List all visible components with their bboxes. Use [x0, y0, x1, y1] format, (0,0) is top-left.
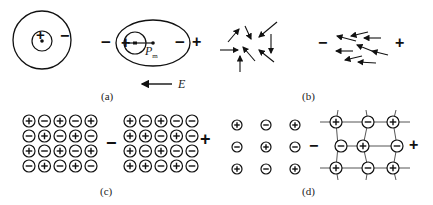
panel-label-b: (b) [302, 90, 315, 102]
anion [39, 145, 51, 157]
cation [124, 160, 136, 172]
anion [23, 160, 35, 172]
cation [85, 115, 97, 127]
d-minus-sign: − [309, 138, 318, 154]
anion [186, 160, 198, 172]
dielectric-polarization-figure: + − − + − + Pm E − + − + − + (a) (b) (c)… [0, 0, 433, 205]
anion [186, 115, 198, 127]
cation [387, 162, 399, 174]
anion [186, 145, 198, 157]
moment-subscript: m [152, 52, 157, 60]
anion [261, 120, 271, 130]
anion [171, 115, 183, 127]
cation [23, 145, 35, 157]
cation [54, 115, 66, 127]
cation [39, 160, 51, 172]
cation [85, 145, 97, 157]
polarized-cloud-minus: − [175, 34, 185, 51]
cation [124, 130, 136, 142]
cation [155, 145, 167, 157]
cation [54, 145, 66, 157]
cation [171, 130, 183, 142]
random-dipoles [220, 22, 277, 72]
anion [362, 116, 374, 128]
cation [261, 142, 271, 152]
d-plus-sign: + [409, 137, 418, 153]
cation [232, 120, 242, 130]
anion [391, 140, 403, 152]
right-plus-sign: + [192, 34, 201, 50]
cation [290, 164, 300, 174]
c-minus-sign: − [106, 134, 117, 152]
anion [232, 142, 242, 152]
anion [362, 162, 374, 174]
cation [140, 160, 152, 172]
cation [124, 145, 136, 157]
cation [290, 120, 300, 130]
cation [70, 160, 82, 172]
anion [85, 130, 97, 142]
left-minus-sign: − [101, 34, 111, 51]
anion [85, 160, 97, 172]
polarized-nucleus-plus: + [121, 35, 130, 51]
cation [330, 162, 342, 174]
dipole-center-mark [133, 42, 137, 45]
cation [124, 115, 136, 127]
panel-label-d: (d) [302, 185, 315, 197]
cation [140, 130, 152, 142]
anion [186, 130, 198, 142]
anion [155, 130, 167, 142]
anion [39, 115, 51, 127]
ion-layer [23, 115, 403, 174]
anion [140, 145, 152, 157]
anion [54, 160, 66, 172]
anion [23, 130, 35, 142]
b-plus-sign: + [395, 35, 404, 51]
panel-label-c: (c) [100, 185, 112, 197]
cation [232, 164, 242, 174]
anion [335, 140, 347, 152]
cation [39, 130, 51, 142]
dipole-moment-label: Pm [145, 44, 158, 60]
anion [261, 164, 271, 174]
anion [140, 115, 152, 127]
anion [171, 145, 183, 157]
anion [54, 130, 66, 142]
cation [23, 115, 35, 127]
anion [70, 115, 82, 127]
cation [70, 130, 82, 142]
b-minus-sign: − [318, 35, 327, 51]
anion [290, 142, 300, 152]
cation [387, 116, 399, 128]
cation [171, 160, 183, 172]
c-plus-sign: + [200, 130, 211, 148]
nucleus-plus-sign: + [36, 27, 45, 42]
cloud-minus-sign: − [60, 28, 69, 44]
anion [155, 160, 167, 172]
field-label: E [178, 77, 185, 92]
aligned-dipoles [336, 32, 388, 63]
cation [330, 116, 342, 128]
cation [357, 140, 369, 152]
cation [155, 115, 167, 127]
panel-label-a: (a) [101, 90, 113, 102]
anion [70, 145, 82, 157]
